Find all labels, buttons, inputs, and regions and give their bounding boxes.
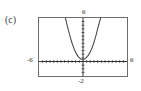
- x-max-label: 6: [130, 57, 134, 64]
- y-min-label: -2: [78, 78, 84, 85]
- plot-canvas: [39, 18, 127, 76]
- panel-label: (c): [5, 14, 16, 25]
- y-max-label: 6: [82, 9, 86, 16]
- figure-screenshot: (c): [0, 0, 141, 91]
- x-min-label: -6: [27, 57, 33, 64]
- plot-frame: [38, 17, 128, 77]
